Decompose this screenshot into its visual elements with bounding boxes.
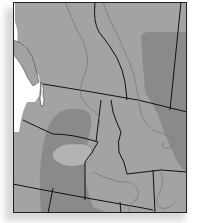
map-canvas (13, 2, 187, 213)
range-map (13, 2, 187, 213)
